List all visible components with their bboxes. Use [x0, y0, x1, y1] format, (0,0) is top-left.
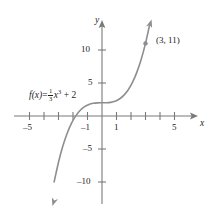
y-tick-label-neg10: –10 — [77, 177, 91, 186]
x-tick-label-5: 5 — [172, 123, 177, 132]
curve-arrowhead-lower — [52, 198, 58, 206]
equation-equals: = — [42, 90, 47, 100]
x-tick-label-neg1: –1 — [81, 123, 90, 132]
x-tick-label-neg5: –5 — [23, 123, 32, 132]
y-axis — [98, 20, 106, 204]
equation-fx: f(x) — [29, 90, 42, 100]
y-axis-label: y — [95, 16, 99, 26]
marked-point-dot — [143, 41, 147, 45]
cubic-function-plot — [0, 0, 213, 212]
x-axis — [14, 112, 198, 120]
equation-constant: + 2 — [64, 90, 76, 100]
equation-exponent: 3 — [58, 88, 61, 95]
equation-numerator: 1 — [48, 88, 53, 95]
y-tick-label-5: 5 — [88, 78, 93, 87]
function-equation-label: f(x)=13x3 + 2 — [29, 88, 76, 102]
y-tick-label-neg5: –5 — [83, 144, 92, 153]
equation-denominator: 3 — [48, 95, 53, 103]
x-axis-label: x — [200, 119, 204, 129]
graph-figure: y x –5 –1 1 5 10 5 –5 –10 f(x)=13x3 + 2 … — [0, 0, 213, 212]
equation-fraction: 13 — [48, 88, 53, 102]
y-tick-label-10: 10 — [81, 45, 90, 54]
marked-point-label: (3, 11) — [156, 36, 180, 45]
x-tick-label-1: 1 — [114, 123, 119, 132]
